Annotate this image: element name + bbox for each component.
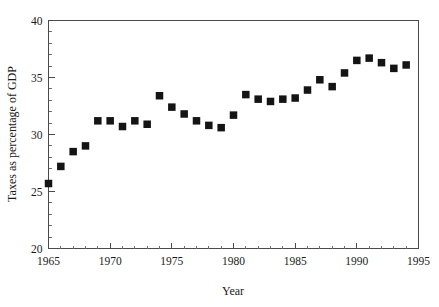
y-axis-title: Taxes as percentage of GDP: [5, 66, 19, 202]
y-tick-label: 40: [31, 15, 43, 27]
data-point-group: [45, 54, 410, 187]
data-point: [143, 120, 151, 128]
data-point: [180, 110, 188, 118]
y-tick-label: 30: [31, 129, 43, 141]
x-axis-ticks: 1965197019751980198519901995: [37, 243, 430, 267]
data-point: [254, 95, 261, 103]
data-point: [353, 57, 361, 65]
data-point: [291, 94, 299, 102]
scatter-plot: 2025303540 1965197019751980198519901995 …: [0, 0, 439, 307]
data-point: [341, 69, 349, 77]
data-point: [217, 124, 225, 132]
data-point: [69, 148, 77, 156]
data-point: [402, 61, 410, 69]
x-tick-label: 1965: [37, 255, 60, 267]
data-point: [119, 123, 127, 130]
data-point: [193, 117, 201, 125]
data-point: [168, 103, 176, 111]
data-point: [205, 122, 213, 130]
x-axis-title: Year: [222, 284, 244, 298]
data-point: [242, 91, 250, 99]
x-tick-label: 1995: [407, 255, 430, 267]
plot-frame: [49, 20, 419, 249]
data-point: [279, 95, 287, 103]
data-point: [378, 59, 386, 67]
data-point: [365, 54, 373, 62]
data-point: [316, 76, 324, 84]
chart-figure: 2025303540 1965197019751980198519901995 …: [0, 0, 439, 307]
y-tick-label: 25: [31, 186, 43, 198]
data-point: [131, 117, 139, 125]
data-point: [156, 92, 164, 100]
data-point: [230, 111, 238, 119]
x-tick-label: 1980: [222, 255, 245, 267]
data-point: [328, 83, 336, 91]
x-tick-label: 1985: [284, 255, 307, 267]
data-point: [94, 117, 102, 125]
y-tick-label: 35: [31, 72, 43, 84]
data-point: [45, 180, 53, 188]
data-point: [106, 117, 114, 125]
y-tick-label: 20: [31, 243, 43, 255]
data-point: [304, 86, 312, 94]
data-point: [57, 163, 65, 171]
data-point: [267, 98, 275, 106]
y-axis-ticks: 2025303540: [31, 15, 55, 255]
data-point: [82, 142, 90, 150]
data-point: [390, 65, 398, 73]
x-tick-label: 1970: [99, 255, 122, 267]
x-tick-label: 1990: [345, 255, 368, 267]
x-tick-label: 1975: [160, 255, 183, 267]
